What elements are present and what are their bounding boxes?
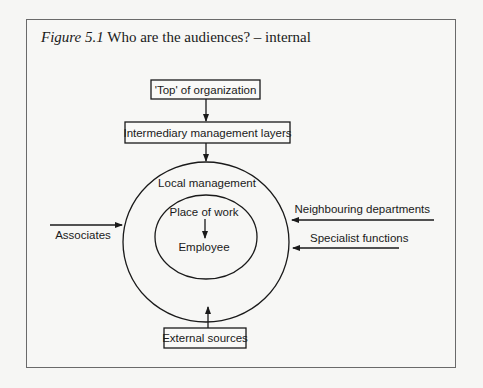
top-of-organization-label: 'Top' of organization (155, 84, 257, 96)
external-sources-label: External sources (162, 332, 248, 344)
neighbouring-departments-label: Neighbouring departments (294, 203, 430, 215)
intermediary-layers-label: Intermediary management layers (123, 127, 291, 139)
associates-label: Associates (55, 229, 111, 241)
external-sources-box: External sources (162, 328, 248, 348)
audiences-diagram: 'Top' of organization Intermediary manag… (0, 0, 483, 388)
specialist-functions-label: Specialist functions (310, 232, 409, 244)
place-of-work-label: Place of work (169, 206, 238, 218)
local-management-label: Local management (158, 177, 257, 189)
intermediary-layers-box: Intermediary management layers (123, 122, 291, 143)
employee-label: Employee (178, 241, 229, 253)
top-of-organization-box: 'Top' of organization (151, 80, 260, 99)
